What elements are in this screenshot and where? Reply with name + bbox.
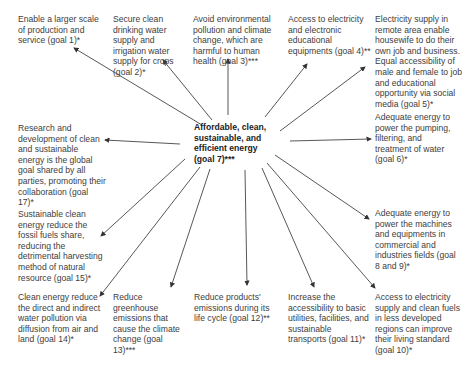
- arrow-goal8-9: [275, 155, 369, 219]
- arrow-goal11: [262, 168, 314, 287]
- arrow-goal15: [101, 159, 185, 236]
- node-goal3: Avoid environmental pollution and climat…: [193, 14, 273, 67]
- node-goal8-9: Adequate energy to power the machines an…: [375, 208, 459, 272]
- node-goal1: Enable a larger scale of production and …: [18, 14, 108, 46]
- node-goal13: Reduce greenhouse emissions that cause t…: [113, 292, 185, 356]
- arrow-goal14: [100, 167, 200, 296]
- node-goal4: Access to electricity and electronic edu…: [288, 14, 372, 56]
- node-goal5: Electricity supply in remote area enable…: [375, 14, 465, 109]
- node-goal17: Research and development of clean and su…: [18, 123, 106, 208]
- arrow-goal13: [171, 169, 210, 287]
- arrow-goal10: [267, 163, 375, 288]
- node-goal10: Access to electricity supply and clean f…: [375, 292, 465, 356]
- arrow-goal6: [290, 139, 371, 141]
- arrow-goal12: [245, 170, 247, 285]
- center-goal7: Affordable, clean, sustainable, and effi…: [194, 122, 274, 164]
- node-goal11: Increase the accessibility to basic util…: [288, 292, 372, 345]
- arrow-goal17: [105, 140, 180, 144]
- arrow-goal5: [280, 67, 365, 131]
- node-goal12: Reduce products' emissions during its li…: [194, 292, 278, 324]
- arrow-goal4: [265, 64, 307, 117]
- node-goal14: Clean energy reduce the direct and indir…: [18, 292, 102, 345]
- node-goal2: Secure clean drinking water supply and i…: [113, 14, 179, 78]
- node-goal15: Sustainable clean energy reduce the foss…: [18, 209, 106, 283]
- node-goal6: Adequate energy to power the pumping, fi…: [375, 112, 459, 165]
